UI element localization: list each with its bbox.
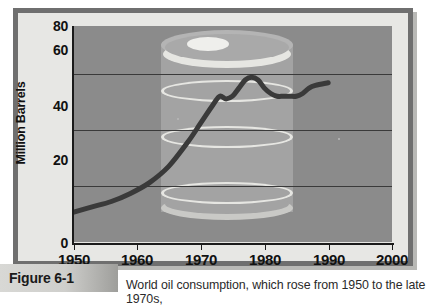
x-tick-1950 — [74, 244, 75, 250]
x-tick-1970 — [201, 244, 202, 250]
y-tick-40: 40 — [28, 98, 68, 114]
x-label-1980: 1980 — [235, 251, 295, 268]
figure-number-badge: Figure 6-1 — [0, 264, 118, 292]
x-tick-2000 — [392, 244, 393, 250]
plot-area — [73, 26, 392, 242]
figure-caption: World oil consumption, which rose from 1… — [126, 278, 430, 306]
x-label-2000: 2000 — [362, 251, 422, 268]
x-tick-1980 — [265, 244, 266, 250]
y-tick-0: 0 — [28, 235, 68, 251]
consumption-line — [73, 26, 392, 242]
y-tick-60: 60 — [28, 42, 68, 58]
x-label-1970: 1970 — [171, 251, 231, 268]
y-axis-line — [72, 26, 74, 243]
y-axis-title: Million Barrels — [14, 73, 28, 173]
y-tick-20: 20 — [28, 152, 68, 168]
x-tick-1960 — [137, 244, 138, 250]
y-tick-80: 80 — [28, 18, 68, 34]
x-label-1990: 1990 — [299, 251, 359, 268]
x-axis-line — [72, 243, 394, 245]
x-tick-1990 — [329, 244, 330, 250]
figure-number-label: Figure 6-1 — [0, 270, 74, 286]
